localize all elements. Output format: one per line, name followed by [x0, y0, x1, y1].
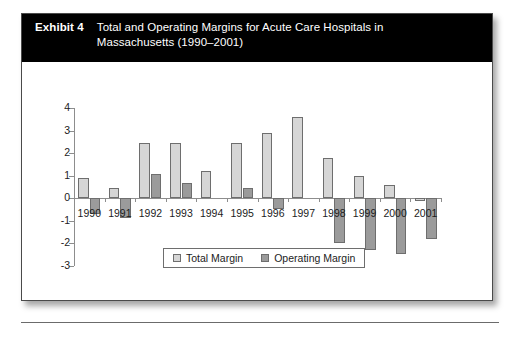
x-axis-tick-label: 2001 — [410, 207, 441, 219]
bar-total-margin — [262, 133, 273, 198]
x-axis-tick-label: 2000 — [380, 207, 411, 219]
bar-operating-margin — [151, 174, 162, 198]
bar-operating-margin — [365, 198, 376, 250]
x-axis-tick-label: 1997 — [288, 207, 319, 219]
bar-operating-margin — [243, 188, 254, 198]
x-axis-tick-mark — [441, 198, 442, 202]
x-axis-tick-mark — [288, 198, 289, 202]
x-axis-tick-mark — [410, 198, 411, 202]
x-axis-tick-mark — [135, 198, 136, 202]
bar-total-margin — [292, 117, 303, 198]
x-axis-tick-label: 1993 — [166, 207, 197, 219]
x-axis-tick-label: 1990 — [74, 207, 105, 219]
x-axis-tick-label: 1999 — [349, 207, 380, 219]
page-divider-rule — [21, 322, 499, 323]
x-axis-tick-label: 1996 — [258, 207, 289, 219]
bar-total-margin — [354, 176, 365, 199]
legend-swatch-total-margin-icon — [173, 254, 181, 262]
x-axis-tick-label: 1992 — [135, 207, 166, 219]
x-axis-tick-mark — [258, 198, 259, 202]
y-axis-line — [74, 108, 75, 266]
bar-total-margin — [323, 158, 334, 199]
y-axis-tick-label: -2 — [61, 236, 70, 249]
x-axis-tick-mark — [319, 198, 320, 202]
bar-total-margin — [384, 185, 395, 199]
x-axis-tick-mark — [74, 198, 75, 202]
y-axis-tick-label: 3 — [64, 124, 70, 137]
y-axis-tick-label: 4 — [64, 101, 70, 114]
chart-area: 43210-1-2-3 1990199119921993199419951996… — [22, 62, 492, 301]
x-axis-tick-mark — [166, 198, 167, 202]
x-axis-tick-label: 1995 — [227, 207, 258, 219]
y-axis-tick-label: 0 — [64, 191, 70, 204]
legend-swatch-operating-margin-icon — [261, 254, 269, 262]
legend-item-total-margin: Total Margin — [173, 252, 243, 264]
bar-total-margin — [201, 171, 212, 198]
legend-label-total-margin: Total Margin — [186, 252, 243, 264]
y-axis-tick-label: 2 — [64, 146, 70, 159]
chart-legend: Total Margin Operating Margin — [163, 248, 365, 268]
y-axis-tick-label: 1 — [64, 169, 70, 182]
y-axis-tick-label: -3 — [61, 259, 70, 272]
exhibit-header: Exhibit 4 Total and Operating Margins fo… — [22, 14, 492, 62]
y-axis-tick-label: -1 — [61, 214, 70, 227]
x-axis-tick-mark — [196, 198, 197, 202]
bar-total-margin — [415, 198, 426, 201]
legend-label-operating-margin: Operating Margin — [274, 252, 355, 264]
legend-item-operating-margin: Operating Margin — [261, 252, 355, 264]
x-axis-tick-mark — [105, 198, 106, 202]
x-axis-tick-mark — [349, 198, 350, 202]
bar-total-margin — [139, 143, 150, 198]
x-axis-tick-mark — [227, 198, 228, 202]
bar-total-margin — [231, 143, 242, 198]
bar-operating-margin — [334, 198, 345, 243]
x-axis-tick-label: 1991 — [105, 207, 136, 219]
exhibit-card: Exhibit 4 Total and Operating Margins fo… — [21, 13, 493, 301]
x-axis-tick-label: 1998 — [319, 207, 350, 219]
exhibit-label: Exhibit 4 — [35, 20, 84, 33]
bar-total-margin — [170, 143, 181, 198]
x-axis-tick-mark — [380, 198, 381, 202]
x-axis-tick-label: 1994 — [196, 207, 227, 219]
bar-operating-margin — [182, 183, 193, 198]
bar-total-margin — [109, 188, 120, 198]
exhibit-title: Total and Operating Margins for Acute Ca… — [97, 20, 452, 49]
bar-chart-plot: 43210-1-2-3 1990199119921993199419951996… — [74, 62, 444, 272]
bar-total-margin — [78, 178, 89, 198]
